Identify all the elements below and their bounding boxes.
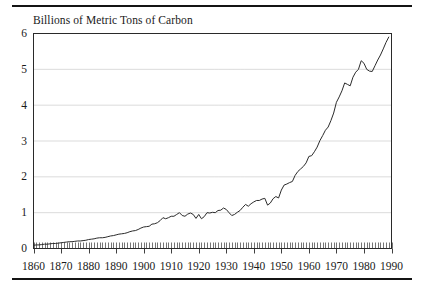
plot-area — [0, 0, 423, 293]
figure: Billions of Metric Tons of Carbon 012345… — [0, 0, 423, 293]
y-tick-label: 3 — [3, 135, 27, 147]
y-tick-label: 2 — [3, 170, 27, 182]
y-tick-label: 5 — [3, 63, 27, 75]
y-tick-label: 1 — [3, 206, 27, 218]
x-tick-label: 1990 — [372, 260, 412, 272]
major-x-ticks — [35, 249, 393, 254]
y-tick-label: 6 — [3, 27, 27, 39]
y-tick-label: 0 — [3, 242, 27, 254]
y-tick-label: 4 — [3, 99, 27, 111]
minor-x-ticks — [35, 243, 393, 249]
gridlines — [34, 69, 392, 212]
data-series-line — [34, 37, 389, 245]
